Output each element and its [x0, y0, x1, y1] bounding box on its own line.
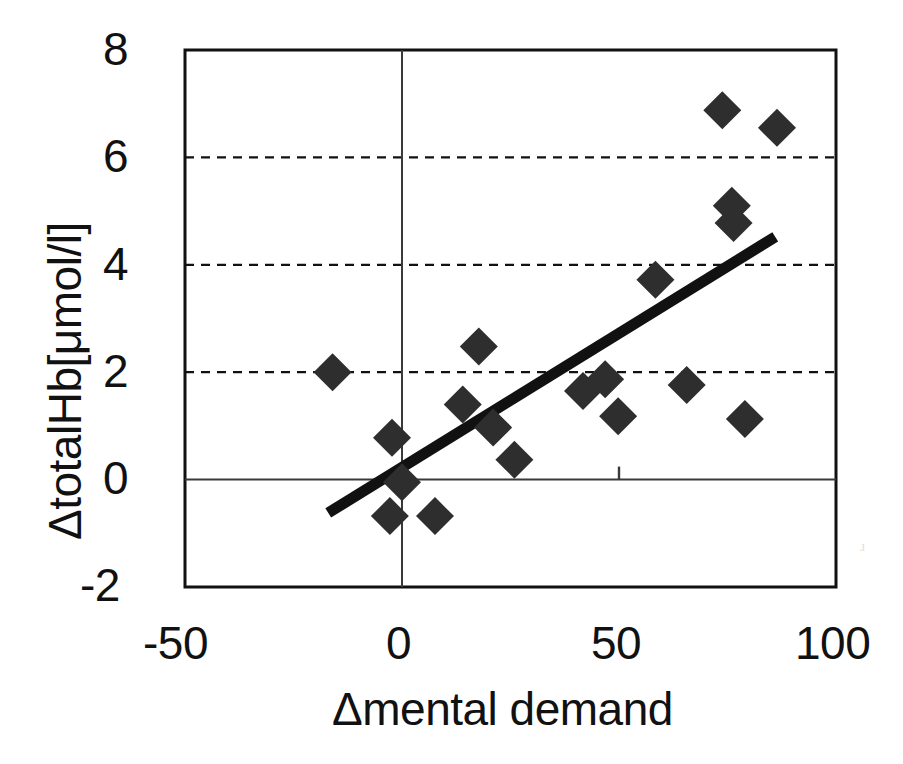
data-point-marker	[636, 261, 674, 299]
data-point-marker	[314, 353, 352, 391]
plot-canvas	[0, 0, 903, 764]
data-point-marker	[703, 91, 741, 129]
data-point-marker	[416, 497, 454, 535]
data-point-marker	[495, 441, 533, 479]
data-point-marker	[371, 497, 409, 535]
data-point-marker	[383, 463, 421, 501]
data-point-marker	[758, 109, 796, 147]
zero-reference-lines	[185, 50, 836, 587]
scatter-plot-figure: 8 6 4 2 0 -2 -50 0 50 100 ΔtotalHb[μmol/…	[0, 0, 903, 764]
axis-lines-group	[185, 50, 836, 587]
data-point-marker	[460, 327, 498, 365]
data-point-marker	[726, 400, 764, 438]
data-point-marker	[599, 397, 637, 435]
data-point-marker	[373, 419, 411, 457]
